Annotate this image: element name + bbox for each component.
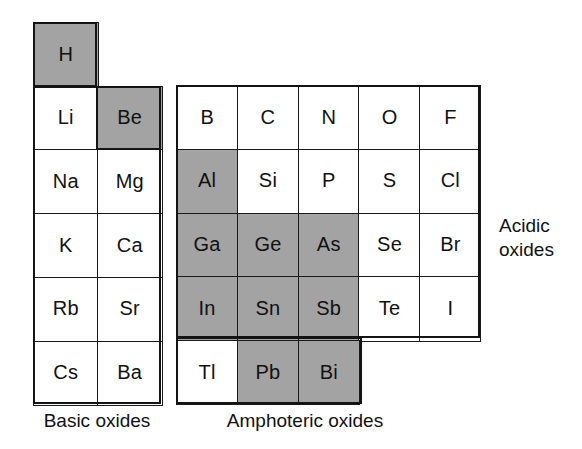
element-cell-mg: Mg: [97, 149, 163, 214]
element-cell-te: Te: [358, 276, 420, 341]
element-symbol: Tl: [199, 362, 216, 382]
element-cell-p: P: [298, 149, 360, 214]
element-symbol: K: [59, 235, 73, 255]
element-symbol: O: [382, 107, 398, 127]
amphoteric-oxides-label: Amphoteric oxides: [190, 410, 420, 432]
element-cell-cs: Cs: [33, 341, 99, 406]
element-cell-s: S: [358, 149, 420, 214]
element-cell-si: Si: [237, 149, 299, 214]
element-cell-be: Be: [97, 86, 163, 151]
element-cell-na: Na: [33, 149, 99, 214]
element-symbol: Cl: [441, 170, 460, 190]
element-symbol: Br: [440, 234, 460, 254]
element-symbol: Li: [58, 107, 74, 127]
element-symbol: Sn: [256, 298, 281, 318]
element-symbol: As: [317, 234, 341, 254]
element-cell-n: N: [298, 85, 360, 150]
oxide-character-periodic-diagram: HLiBeNaMgKCaRbSrCsBa BCNOFAlSiPSClGaGeAs…: [0, 0, 582, 449]
element-symbol: Bi: [320, 362, 338, 382]
element-cell-tl: Tl: [176, 340, 238, 405]
element-cell-se: Se: [358, 213, 420, 278]
element-cell-ga: Ga: [176, 213, 238, 278]
element-symbol: Ga: [194, 234, 221, 254]
element-symbol: N: [321, 107, 336, 127]
element-symbol: Sb: [316, 298, 341, 318]
element-symbol: Rb: [53, 298, 79, 318]
element-cell-b: B: [176, 85, 238, 150]
element-cell-pb: Pb: [237, 340, 299, 405]
element-cell-sb: Sb: [298, 276, 360, 341]
element-symbol: Al: [198, 170, 216, 190]
element-cell-ca: Ca: [97, 213, 163, 278]
element-cell-ge: Ge: [237, 213, 299, 278]
element-cell-i: I: [419, 276, 481, 341]
element-cell-al: Al: [176, 149, 238, 214]
element-cell-in: In: [176, 276, 238, 341]
element-cell-sn: Sn: [237, 276, 299, 341]
element-symbol: Be: [117, 107, 142, 127]
element-cell-h: H: [33, 22, 99, 87]
element-symbol: Sr: [120, 298, 140, 318]
element-symbol: Si: [259, 170, 277, 190]
acidic-oxides-label-line2: oxides: [499, 239, 554, 261]
element-symbol: Ge: [254, 234, 281, 254]
element-symbol: P: [322, 170, 336, 190]
element-cell-as: As: [298, 213, 360, 278]
element-cell-f: F: [419, 85, 481, 150]
element-symbol: Na: [53, 171, 79, 191]
element-symbol: B: [200, 107, 214, 127]
acidic-oxides-label-line1: Acidic: [499, 215, 550, 237]
element-symbol: C: [261, 107, 276, 127]
element-symbol: Te: [379, 298, 401, 318]
element-symbol: Se: [377, 234, 402, 254]
element-symbol: Ca: [117, 235, 143, 255]
element-symbol: Pb: [256, 362, 281, 382]
element-cell-br: Br: [419, 213, 481, 278]
element-symbol: F: [444, 107, 456, 127]
element-symbol: H: [58, 44, 73, 64]
element-cell-sr: Sr: [97, 277, 163, 342]
element-symbol: I: [447, 298, 453, 318]
element-cell-rb: Rb: [33, 277, 99, 342]
element-cell-cl: Cl: [419, 149, 481, 214]
element-cell-ba: Ba: [97, 341, 163, 406]
element-cell-bi: Bi: [298, 340, 360, 405]
element-cell-k: K: [33, 213, 99, 278]
element-symbol: Ba: [117, 362, 142, 382]
basic-oxides-label: Basic oxides: [37, 410, 157, 432]
element-symbol: S: [383, 170, 397, 190]
element-cell-o: O: [358, 85, 420, 150]
element-symbol: Mg: [116, 171, 144, 191]
element-symbol: Cs: [53, 362, 78, 382]
element-cell-li: Li: [33, 86, 99, 151]
element-cell-c: C: [237, 85, 299, 150]
element-symbol: In: [199, 298, 216, 318]
